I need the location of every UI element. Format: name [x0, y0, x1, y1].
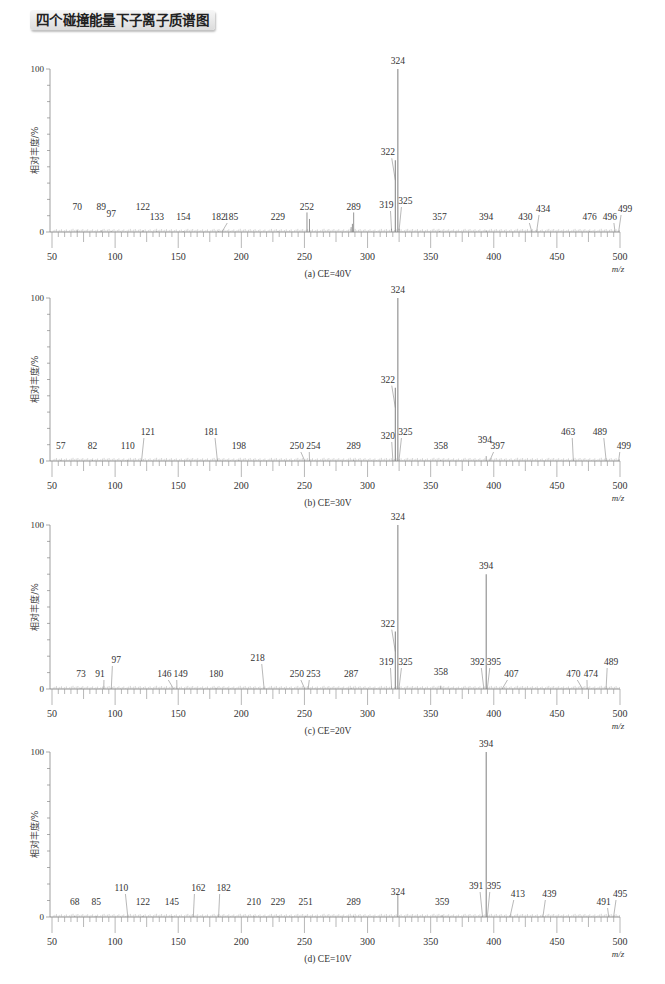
x-tick-label: 200	[234, 251, 249, 262]
y-axis-label: 相对丰度/%	[29, 810, 40, 858]
y-tick-100: 100	[31, 293, 45, 303]
y-tick-0: 0	[40, 227, 45, 237]
x-tick-label: 150	[171, 936, 186, 947]
x-tick-label: 450	[549, 480, 564, 491]
peak-label-476: 476	[583, 212, 598, 222]
y-tick-100: 100	[31, 747, 45, 757]
peak-label-395: 395	[487, 657, 502, 667]
peak-label-439: 439	[542, 889, 557, 899]
peak-label-394: 394	[479, 561, 494, 571]
peak-label-133: 133	[150, 212, 165, 222]
peak-label-394: 394	[479, 739, 494, 749]
panel-caption: (a) CE=40V	[305, 269, 352, 280]
peak-label-324: 324	[391, 887, 406, 897]
peak-label-474: 474	[584, 669, 599, 679]
x-tick-label: 50	[47, 480, 57, 491]
peak-label-145: 145	[165, 897, 180, 907]
peak-label-110: 110	[114, 883, 128, 893]
peak-label-499: 499	[617, 441, 632, 451]
peak-label-319: 319	[379, 657, 394, 667]
peak-label-491: 491	[596, 897, 611, 907]
peak-label-73: 73	[76, 669, 86, 679]
x-tick-label: 350	[423, 708, 438, 719]
peak-label-250: 250	[290, 441, 305, 451]
x-tick-label: 450	[549, 936, 564, 947]
y-tick-100: 100	[31, 520, 45, 530]
peak-label-182: 182	[217, 883, 232, 893]
peak-label-430: 430	[518, 212, 533, 222]
peak-label-251: 251	[299, 897, 314, 907]
x-tick-label: 100	[108, 708, 123, 719]
y-axis-label: 相对丰度/%	[29, 355, 40, 403]
spectrum-panel-c: 1000相对丰度/%50100150200250300350400450500m…	[29, 512, 628, 737]
x-axis-label: m/z	[612, 493, 625, 503]
peak-label-289: 289	[347, 202, 362, 212]
x-tick-label: 350	[423, 251, 438, 262]
y-axis-label: 相对丰度/%	[29, 126, 40, 174]
peak-label-324: 324	[391, 56, 406, 66]
peak-label-154: 154	[176, 212, 191, 222]
peak-label-89: 89	[96, 202, 106, 212]
peak-label-395: 395	[487, 881, 502, 891]
x-tick-label: 200	[234, 936, 249, 947]
x-tick-label: 400	[486, 480, 501, 491]
peak-label-394: 394	[479, 212, 494, 222]
y-axis-label: 相对丰度/%	[29, 583, 40, 631]
spectrum-panel-b: 1000相对丰度/%50100150200250300350400450500m…	[29, 285, 631, 509]
peak-label-325: 325	[398, 196, 413, 206]
x-tick-label: 500	[613, 708, 628, 719]
x-tick-label: 250	[297, 480, 312, 491]
x-tick-label: 50	[47, 936, 57, 947]
peak-label-359: 359	[435, 897, 450, 907]
x-tick-label: 300	[360, 936, 375, 947]
x-tick-label: 100	[108, 480, 123, 491]
x-tick-label: 400	[486, 936, 501, 947]
x-tick-label: 400	[486, 708, 501, 719]
peak-label-229: 229	[271, 897, 286, 907]
x-tick-label: 50	[47, 251, 57, 262]
peak-label-413: 413	[511, 889, 526, 899]
x-tick-label: 450	[549, 251, 564, 262]
peak-label-392: 392	[470, 657, 485, 667]
peak-label-397: 397	[490, 441, 505, 451]
peak-label-218: 218	[251, 653, 266, 663]
x-tick-label: 350	[423, 936, 438, 947]
peak-label-229: 229	[271, 212, 286, 222]
x-axis-label: m/z	[612, 949, 625, 959]
x-axis-label: m/z	[612, 721, 625, 731]
peak-label-320: 320	[381, 431, 396, 441]
spectrum-panel-d: 1000相对丰度/%50100150200250300350400450500m…	[29, 739, 628, 965]
x-tick-label: 450	[549, 708, 564, 719]
peak-label-499: 499	[618, 204, 633, 214]
x-tick-label: 250	[297, 708, 312, 719]
y-tick-100: 100	[31, 64, 45, 74]
y-tick-0: 0	[40, 456, 45, 466]
peak-label-407: 407	[504, 669, 519, 679]
x-tick-label: 500	[613, 936, 628, 947]
peak-label-68: 68	[70, 897, 80, 907]
y-tick-0: 0	[40, 912, 45, 922]
peak-label-162: 162	[191, 883, 206, 893]
x-tick-label: 200	[234, 708, 249, 719]
x-tick-label: 100	[108, 251, 123, 262]
peak-label-146: 146	[157, 669, 172, 679]
peak-label-358: 358	[434, 667, 449, 677]
x-axis-label: m/z	[612, 264, 625, 274]
mass-spectra-figure: 1000相对丰度/%50100150200250300350400450500m…	[0, 0, 665, 984]
peak-label-180: 180	[209, 669, 224, 679]
x-tick-label: 250	[297, 936, 312, 947]
peak-label-122: 122	[136, 202, 151, 212]
x-tick-label: 400	[486, 251, 501, 262]
peak-label-358: 358	[434, 441, 449, 451]
x-tick-label: 500	[613, 251, 628, 262]
x-tick-label: 100	[108, 936, 123, 947]
peak-label-495: 495	[613, 889, 628, 899]
peak-label-325: 325	[398, 427, 413, 437]
peak-label-97: 97	[112, 655, 122, 665]
peak-label-122: 122	[136, 897, 151, 907]
peak-label-198: 198	[232, 441, 247, 451]
peak-label-82: 82	[88, 441, 98, 451]
x-tick-label: 300	[360, 251, 375, 262]
x-tick-label: 50	[47, 708, 57, 719]
peak-label-185: 185	[224, 212, 239, 222]
